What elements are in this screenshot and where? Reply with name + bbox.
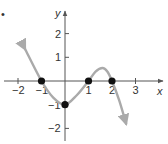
function-graph: • x y −2−112321−1−2 bbox=[0, 0, 168, 144]
y-tick-label: 2 bbox=[55, 28, 61, 40]
y-tick-label: −2 bbox=[48, 122, 61, 134]
x-axis-label: x bbox=[156, 85, 163, 97]
data-point bbox=[85, 77, 92, 84]
x-tick-label: −2 bbox=[12, 84, 25, 96]
data-point bbox=[108, 77, 115, 84]
y-axis-label: y bbox=[54, 7, 62, 19]
data-point bbox=[38, 77, 45, 84]
y-tick-label: −1 bbox=[48, 99, 61, 111]
data-point bbox=[61, 101, 68, 108]
y-tick-label: 1 bbox=[55, 51, 61, 63]
x-tick-label: 3 bbox=[133, 84, 139, 96]
bullet-marker: • bbox=[1, 8, 5, 20]
x-tick-label: 1 bbox=[86, 84, 92, 96]
